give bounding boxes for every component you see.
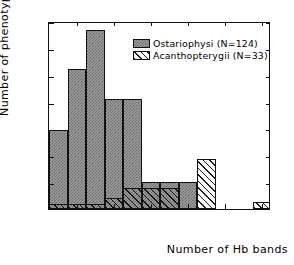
y-tick-mark-right bbox=[266, 157, 270, 158]
y-tick-mark-right bbox=[266, 184, 270, 185]
legend-item: Ostariophysi (N=124) bbox=[133, 38, 268, 50]
checker-swatch-icon bbox=[133, 39, 150, 48]
y-tick-mark bbox=[49, 23, 54, 24]
y-tick-mark bbox=[49, 184, 54, 185]
y-tick-mark bbox=[49, 77, 54, 78]
x-tick-mark-top bbox=[188, 22, 189, 26]
y-tick-mark bbox=[49, 104, 54, 105]
histogram-bar bbox=[86, 30, 105, 209]
histogram-bar-overlap bbox=[160, 188, 179, 209]
x-tick-mark bbox=[114, 204, 115, 209]
histogram-bar-overlap bbox=[123, 188, 142, 209]
x-tick-mark bbox=[151, 204, 152, 209]
y-tick-mark-right bbox=[266, 104, 270, 105]
histogram-bar-overlap bbox=[86, 204, 105, 209]
y-tick-mark bbox=[49, 50, 54, 51]
x-tick-mark bbox=[77, 204, 78, 209]
legend-item: Acanthopterygii (N=33) bbox=[133, 50, 268, 62]
histogram-bar bbox=[49, 130, 68, 209]
y-tick-mark bbox=[49, 130, 54, 131]
y-tick-mark-right bbox=[266, 77, 270, 78]
legend-label: Ostariophysi (N=124) bbox=[153, 38, 258, 50]
y-tick-mark-right bbox=[266, 23, 270, 24]
x-tick-mark bbox=[262, 204, 263, 209]
chart-legend: Ostariophysi (N=124) Acanthopterygii (N=… bbox=[133, 38, 268, 61]
x-tick-mark bbox=[188, 204, 189, 209]
y-tick-mark-right bbox=[266, 130, 270, 131]
x-axis-title: Number of Hb bands bbox=[0, 243, 288, 256]
x-tick-mark-top bbox=[262, 22, 263, 26]
legend-label: Acanthopterygii (N=33) bbox=[153, 50, 268, 62]
x-tick-mark-top bbox=[77, 22, 78, 26]
y-axis-title: Number of phenotypes bbox=[0, 0, 11, 116]
y-tick-mark bbox=[49, 157, 54, 158]
x-tick-mark-top bbox=[114, 22, 115, 26]
histogram-figure: Number of phenotypes Number of Hb bands … bbox=[0, 0, 294, 265]
histogram-bar bbox=[68, 69, 87, 209]
histogram-bar bbox=[105, 99, 124, 209]
hatch-swatch-icon bbox=[133, 51, 150, 60]
histogram-bar bbox=[197, 159, 216, 209]
x-tick-mark bbox=[225, 204, 226, 209]
histogram-bar-overlap bbox=[49, 204, 68, 209]
x-tick-mark-top bbox=[225, 22, 226, 26]
x-tick-mark-top bbox=[151, 22, 152, 26]
